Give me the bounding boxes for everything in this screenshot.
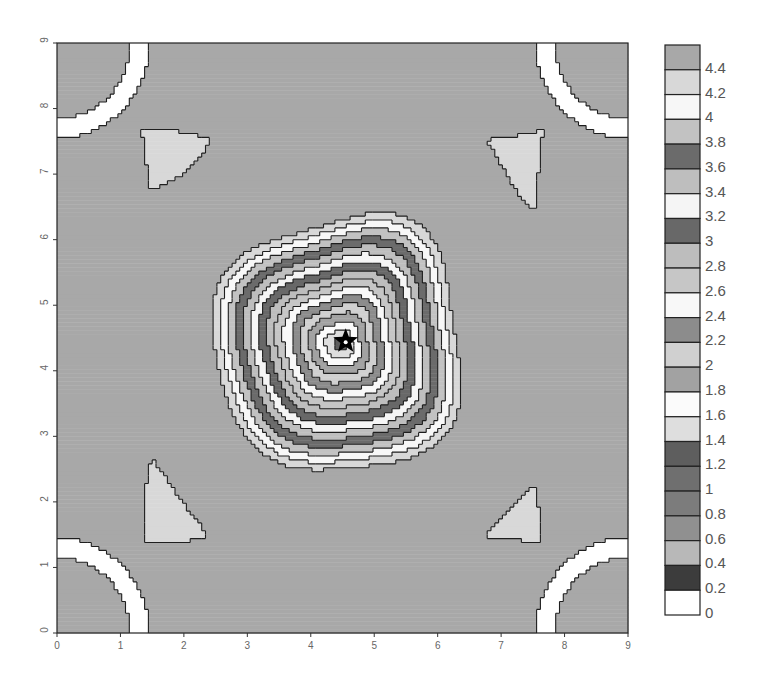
legend-label: 1.4 xyxy=(705,431,726,448)
legend-swatch xyxy=(665,466,700,491)
legend-swatch xyxy=(665,70,700,95)
legend-swatch xyxy=(665,169,700,194)
legend-swatch xyxy=(665,144,700,169)
y-tick-label: 5 xyxy=(39,299,50,305)
legend-label: 2.4 xyxy=(705,307,726,324)
y-tick-label: 4 xyxy=(39,365,50,371)
legend-label: 0.4 xyxy=(705,554,726,571)
y-tick-label: 2 xyxy=(39,496,50,502)
contour-chart: 0123456789 0123456789 4.44.243.83.63.43.… xyxy=(0,0,769,686)
color-legend: 4.44.243.83.63.43.232.82.62.42.221.81.61… xyxy=(665,45,726,621)
legend-swatch xyxy=(665,367,700,392)
legend-swatch xyxy=(665,243,700,268)
legend-swatch xyxy=(665,318,700,343)
legend-swatch xyxy=(665,541,700,566)
x-axis: 0123456789 xyxy=(54,633,631,651)
x-tick-label: 6 xyxy=(435,640,441,651)
legend-swatch xyxy=(665,516,700,541)
y-tick-label: 0 xyxy=(39,627,50,633)
y-tick-label: 6 xyxy=(39,233,50,239)
legend-swatch xyxy=(665,293,700,318)
x-tick-label: 7 xyxy=(498,640,504,651)
legend-swatch xyxy=(665,194,700,219)
y-tick-label: 1 xyxy=(39,561,50,567)
legend-label: 0.6 xyxy=(705,530,726,547)
legend-label: 3.4 xyxy=(705,183,726,200)
y-tick-label: 7 xyxy=(39,168,50,174)
y-tick-label: 9 xyxy=(39,37,50,43)
legend-label: 4.2 xyxy=(705,84,726,101)
legend-label: 1.8 xyxy=(705,381,726,398)
legend-label: 1 xyxy=(705,480,713,497)
legend-label: 4 xyxy=(705,108,713,125)
legend-label: 0.2 xyxy=(705,579,726,596)
legend-swatch xyxy=(665,590,700,615)
legend-swatch xyxy=(665,442,700,467)
legend-label: 1.2 xyxy=(705,455,726,472)
legend-swatch xyxy=(665,45,700,70)
x-tick-label: 4 xyxy=(308,640,314,651)
x-tick-label: 1 xyxy=(118,640,124,651)
legend-label: 3.2 xyxy=(705,207,726,224)
legend-label: 3.6 xyxy=(705,158,726,175)
x-tick-label: 8 xyxy=(562,640,568,651)
legend-label: 4.4 xyxy=(705,59,726,76)
legend-swatch xyxy=(665,119,700,144)
legend-label: 2 xyxy=(705,356,713,373)
legend-label: 0.8 xyxy=(705,505,726,522)
legend-label: 0 xyxy=(705,604,713,621)
legend-label: 2.6 xyxy=(705,282,726,299)
legend-swatch xyxy=(665,342,700,367)
legend-label: 2.8 xyxy=(705,257,726,274)
legend-swatch xyxy=(665,417,700,442)
y-axis: 0123456789 xyxy=(39,37,57,633)
legend-swatch xyxy=(665,95,700,120)
x-tick-label: 9 xyxy=(625,640,631,651)
legend-label: 1.6 xyxy=(705,406,726,423)
legend-label: 2.2 xyxy=(705,331,726,348)
y-tick-label: 3 xyxy=(39,430,50,436)
legend-swatch xyxy=(665,565,700,590)
legend-swatch xyxy=(665,218,700,243)
x-tick-label: 5 xyxy=(371,640,377,651)
x-tick-label: 0 xyxy=(54,640,60,651)
legend-label: 3 xyxy=(705,232,713,249)
x-tick-label: 2 xyxy=(181,640,187,651)
legend-swatch xyxy=(665,491,700,516)
legend-swatch xyxy=(665,268,700,293)
y-tick-label: 8 xyxy=(39,102,50,108)
legend-swatch xyxy=(665,392,700,417)
legend-label: 3.8 xyxy=(705,133,726,150)
x-tick-label: 3 xyxy=(245,640,251,651)
